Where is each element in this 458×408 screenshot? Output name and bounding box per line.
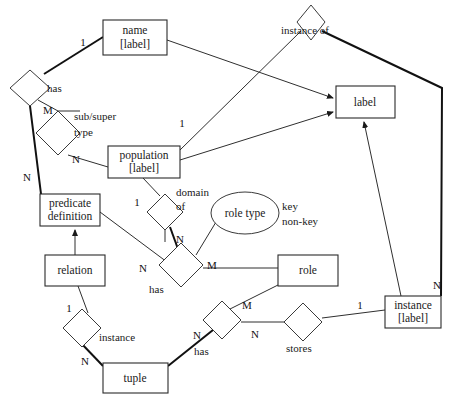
- relationship-sub-super-type-label: sub/super: [74, 110, 117, 122]
- entity-tuple[interactable]: tuple: [103, 363, 168, 393]
- entity-role[interactable]: role: [278, 255, 338, 286]
- entity-relation-line1: relation: [57, 264, 92, 276]
- entity-predicate-definition-line2: definition: [48, 210, 93, 222]
- cardinality-tuple-n: N: [81, 355, 89, 367]
- entity-name[interactable]: name [label]: [103, 20, 167, 55]
- cardinality-relation-1: 1: [66, 302, 72, 314]
- relationship-domain-of-label: domain: [176, 186, 209, 198]
- note-non-key: non-key: [282, 215, 319, 227]
- entity-label[interactable]: label: [336, 86, 395, 118]
- er-diagram-canvas: has sub/super type instance of domain of…: [0, 0, 458, 408]
- entity-predicate-definition-line1: predicate: [49, 197, 91, 210]
- relationship-instance-label: instance: [99, 331, 135, 343]
- link-population-to-label: [180, 112, 333, 160]
- entity-instance-line2: [label]: [398, 312, 428, 324]
- entity-instance[interactable]: instance [label]: [385, 296, 441, 328]
- relationship-has-name[interactable]: [10, 70, 50, 106]
- link-stores-to-instance: [322, 310, 385, 318]
- cardinality-domain-n: N: [176, 233, 184, 245]
- entity-population-line2: [label]: [129, 162, 159, 174]
- entity-predicate-definition[interactable]: predicate definition: [40, 194, 100, 226]
- entity-label-line1: label: [354, 96, 376, 108]
- cardinality-subsuper-n: N: [72, 153, 80, 165]
- cardinality-population-1: 1: [179, 117, 185, 129]
- link-name-to-label: [167, 40, 333, 98]
- relationship-diamonds: has sub/super type instance of domain of…: [10, 5, 329, 357]
- cardinality-has-role-n: N: [139, 262, 147, 274]
- cardinality-name-1: 1: [80, 36, 86, 48]
- entity-name-line1: name: [123, 24, 148, 36]
- cardinality-domain-1: 1: [134, 196, 140, 208]
- cardinality-tuple-m: M: [242, 299, 252, 311]
- relationship-stores[interactable]: [284, 303, 322, 341]
- link-instance-to-label: [364, 122, 401, 296]
- entity-instance-line1: instance: [394, 299, 432, 311]
- entity-population-line1: population: [119, 149, 168, 162]
- link-has-to-predicate: [30, 106, 41, 194]
- role-type-label: role type: [225, 207, 266, 220]
- link-population-to-instanceof: [180, 31, 301, 150]
- relationship-stores-label: stores: [286, 342, 312, 354]
- entity-name-line2: [label]: [120, 38, 150, 50]
- annotation-notes: key non-key: [282, 200, 319, 227]
- cardinality-tuple-n2: N: [193, 329, 201, 341]
- relationship-instance-of-label: instance of: [281, 24, 329, 36]
- relationship-has-name-label: has: [47, 82, 62, 94]
- link-population-to-domainof: [143, 178, 160, 196]
- link-instanceof-to-instance: [322, 31, 442, 296]
- attribute-role-type[interactable]: role type: [211, 192, 279, 234]
- relationship-has-tuple-label: has: [194, 345, 209, 357]
- note-key: key: [282, 200, 298, 212]
- cardinality-stores-1: 1: [357, 299, 363, 311]
- cardinality-has-role-m: M: [207, 259, 217, 271]
- relationship-has-role[interactable]: [159, 243, 203, 287]
- entity-role-line1: role: [299, 264, 317, 276]
- link-role-to-hastuple: [228, 285, 278, 310]
- entity-tuple-line1: tuple: [124, 372, 147, 385]
- cardinality-has-n: N: [23, 171, 31, 183]
- cardinality-has-m: M: [43, 104, 53, 116]
- cardinality-instance-n: N: [433, 279, 441, 291]
- relationship-domain-of-label2: of: [176, 200, 186, 212]
- entity-population[interactable]: population [label]: [108, 146, 180, 178]
- er-diagram-svg: has sub/super type instance of domain of…: [0, 0, 458, 408]
- relationship-sub-super-type-label2: type: [74, 126, 93, 138]
- link-name-to-has: [44, 37, 103, 74]
- link-roletype-to-has: [196, 222, 216, 255]
- cardinality-stores-n: N: [251, 328, 259, 340]
- relationship-instance[interactable]: [63, 309, 101, 347]
- link-relation-to-instancerel: [78, 286, 88, 313]
- relationship-has-role-label: has: [149, 283, 164, 295]
- entity-relation[interactable]: relation: [45, 255, 105, 286]
